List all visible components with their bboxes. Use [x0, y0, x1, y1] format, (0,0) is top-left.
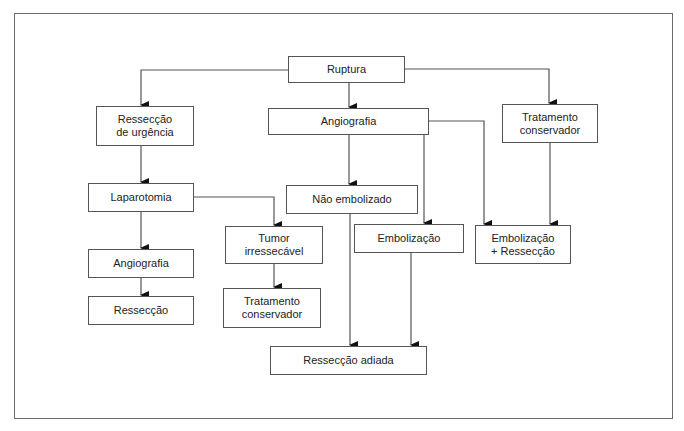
node-label: Laparotomia — [110, 191, 171, 204]
node-label: Angiografia — [113, 257, 169, 270]
node-label: Ressecção adiada — [303, 354, 394, 367]
node-label: Ressecção — [114, 304, 168, 317]
node-label: Embolização — [378, 232, 441, 245]
node-label: Tumor irressecável — [245, 232, 304, 258]
node-label: Angiografia — [321, 115, 377, 128]
node-label: Tratamento conservador — [242, 295, 303, 321]
node-label: Ruptura — [327, 63, 366, 76]
node-angiografia-top: Angiografia — [268, 108, 429, 135]
node-embolizacao: Embolização — [354, 224, 464, 253]
node-resseccao: Ressecção — [88, 296, 194, 325]
node-angiografia-bottom: Angiografia — [88, 249, 194, 278]
node-embolizacao-resseccao: Embolização + Ressecção — [475, 225, 571, 264]
node-tratamento-conservador-bottom: Tratamento conservador — [223, 288, 321, 328]
node-tratamento-conservador-right: Tratamento conservador — [502, 104, 598, 143]
node-nao-embolizado: Não embolizado — [286, 185, 418, 214]
node-ruptura: Ruptura — [288, 56, 405, 83]
node-label: Embolização + Ressecção — [491, 232, 555, 258]
node-label: Ressecção de urgência — [116, 113, 174, 139]
node-label: Tratamento conservador — [520, 111, 581, 137]
node-resseccao-urgencia: Ressecção de urgência — [96, 106, 194, 146]
node-label: Não embolizado — [312, 193, 392, 206]
node-tumor-irressecavel: Tumor irressecável — [225, 226, 323, 264]
node-laparotomia: Laparotomia — [88, 183, 194, 212]
node-resseccao-adiada: Ressecção adiada — [270, 346, 427, 375]
